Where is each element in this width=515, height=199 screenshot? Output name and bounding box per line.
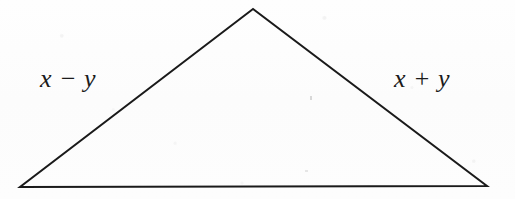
right-side-label: x + y [394, 66, 450, 92]
figure-canvas: x − y x + y [0, 0, 515, 199]
triangle-diagram [0, 0, 515, 199]
triangle-outline [20, 9, 487, 187]
left-side-label: x − y [40, 66, 96, 92]
